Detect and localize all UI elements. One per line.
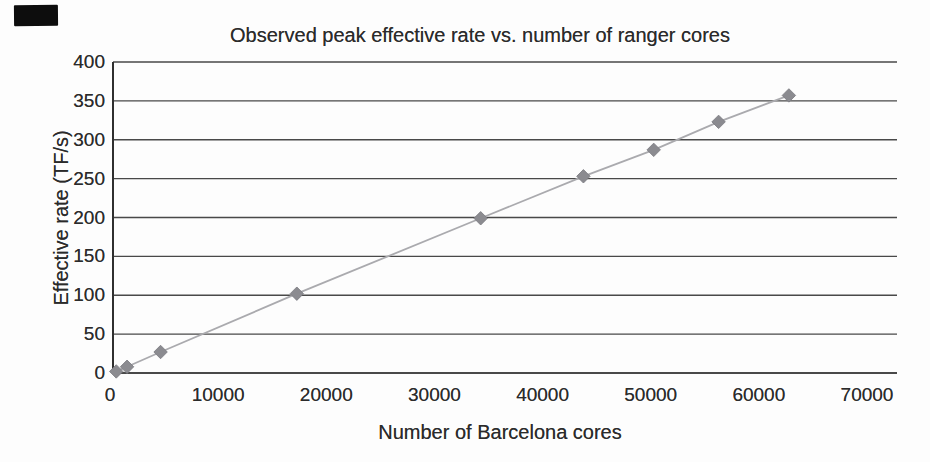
data-point-marker <box>782 89 795 102</box>
x-tick-label: 10000 <box>168 384 268 406</box>
scanned-chart-page: Observed peak effective rate vs. number … <box>0 0 930 462</box>
data-point-marker <box>647 143 660 156</box>
y-tick-label: 250 <box>30 168 105 190</box>
x-tick-label: 70000 <box>817 384 917 406</box>
x-tick-label: 30000 <box>384 384 484 406</box>
data-point-marker <box>712 115 725 128</box>
y-tick-label: 150 <box>30 245 105 267</box>
y-tick-label: 100 <box>30 284 105 306</box>
x-tick-label: 40000 <box>493 384 593 406</box>
data-series-line <box>116 95 789 371</box>
x-tick-label: 50000 <box>601 384 701 406</box>
data-point-marker <box>290 287 303 300</box>
y-tick-label: 350 <box>30 90 105 112</box>
x-tick-label: 20000 <box>276 384 376 406</box>
y-tick-label: 50 <box>30 323 105 345</box>
y-tick-label: 300 <box>30 129 105 151</box>
y-tick-label: 0 <box>30 362 105 384</box>
data-point-marker <box>577 170 590 183</box>
y-tick-label: 400 <box>30 51 105 73</box>
x-tick-label: 0 <box>60 384 160 406</box>
data-point-marker <box>154 345 167 358</box>
x-tick-label: 60000 <box>709 384 809 406</box>
y-tick-label: 200 <box>30 207 105 229</box>
data-point-marker <box>474 212 487 225</box>
